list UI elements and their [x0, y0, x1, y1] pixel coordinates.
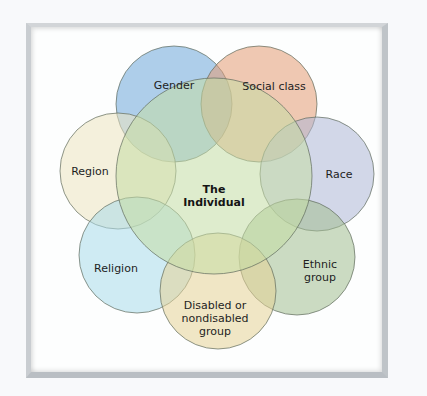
label-religion: Religion — [94, 262, 138, 275]
label-disabled-line3: group — [199, 325, 231, 338]
label-region: Region — [71, 165, 109, 178]
label-disabled-line2: nondisabled — [182, 312, 249, 325]
label-race: Race — [326, 168, 353, 181]
label-ethnic-group-line1: Ethnic — [303, 258, 337, 271]
label-ethnic-group-line2: group — [304, 271, 336, 284]
label-individual-line1: The — [203, 183, 226, 196]
label-individual-line2: Individual — [183, 196, 244, 209]
label-social-class: Social class — [242, 80, 306, 93]
circle-individual — [116, 78, 312, 274]
label-gender: Gender — [154, 79, 195, 92]
label-disabled-line1: Disabled or — [184, 299, 247, 312]
venn-diagram: Gender Social class Region Race Religion… — [0, 0, 427, 396]
